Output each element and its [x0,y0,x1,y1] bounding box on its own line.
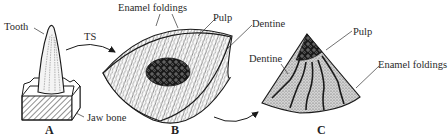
label-c-dentine: Dentine [249,54,282,65]
label-c-enamel-foldings: Enamel foldings [378,60,447,71]
panel-c-wedge-section [262,31,379,113]
caption-b: B [171,124,179,136]
ts-arrow [66,44,115,52]
label-b-pulp: Pulp [213,13,232,24]
panel-a-tooth-in-jaw [22,25,84,120]
label-tooth: Tooth [4,22,28,33]
label-ts: TS [84,32,96,43]
panel-b-cross-section [103,14,252,123]
label-jaw-bone: Jaw bone [87,113,126,124]
caption-a: A [45,124,54,136]
label-b-dentine: Dentine [252,19,285,30]
label-c-pulp: Pulp [353,27,372,38]
caption-c: C [317,124,326,136]
label-b-enamel-foldings: Enamel foldings [118,3,187,14]
b-to-c-arrow [214,112,258,121]
